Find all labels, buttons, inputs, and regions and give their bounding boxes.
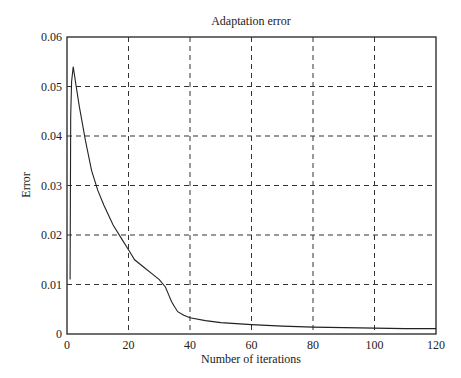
y-tick-label: 0.02 — [41, 228, 62, 242]
chart-title: Adaptation error — [211, 14, 291, 28]
y-tick-label: 0.06 — [41, 30, 62, 44]
x-tick-label: 40 — [184, 338, 196, 352]
x-tick-label: 20 — [123, 338, 135, 352]
x-axis-ticks: 020406080100120 — [64, 338, 445, 352]
x-tick-label: 0 — [64, 338, 70, 352]
x-tick-label: 80 — [307, 338, 319, 352]
y-axis-ticks: 00.010.020.030.040.050.06 — [41, 30, 62, 341]
x-tick-label: 60 — [246, 338, 258, 352]
y-tick-label: 0.01 — [41, 278, 62, 292]
y-axis-label: Error — [19, 172, 33, 197]
y-tick-label: 0.04 — [41, 129, 62, 143]
y-tick-label: 0.05 — [41, 80, 62, 94]
chart-canvas: 020406080100120 00.010.020.030.040.050.0… — [0, 0, 461, 378]
y-tick-label: 0.03 — [41, 179, 62, 193]
x-tick-label: 120 — [427, 338, 445, 352]
x-axis-label: Number of iterations — [201, 352, 301, 366]
y-tick-label: 0 — [56, 327, 62, 341]
x-tick-label: 100 — [366, 338, 384, 352]
